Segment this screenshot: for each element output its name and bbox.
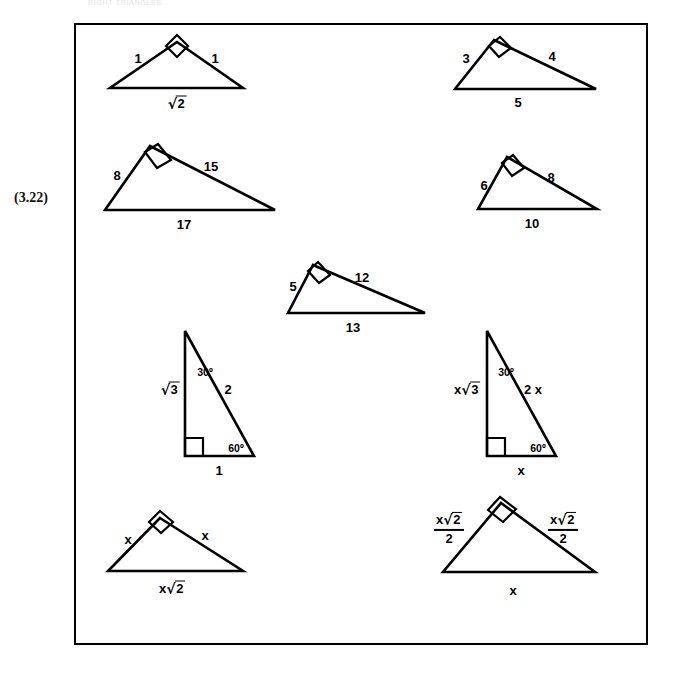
radical-sqrt2: √2 bbox=[166, 581, 185, 596]
label-tri7-angle-top: 30º bbox=[498, 367, 514, 378]
label-tri3-base: 17 bbox=[177, 218, 191, 231]
label-tri8-left-leg: x bbox=[124, 533, 131, 546]
label-tri8-base-prefix: x bbox=[159, 581, 166, 596]
radical-sqrt2: √2 bbox=[168, 96, 187, 111]
triangle-labels-layer: 1 1 √2 3 4 5 8 15 17 6 8 10 5 12 13 √3 2… bbox=[0, 0, 676, 679]
label-tri2-right-leg: 4 bbox=[548, 50, 555, 63]
label-tri5-base: 13 bbox=[346, 321, 360, 334]
fraction-numerator: x√2 bbox=[548, 512, 578, 529]
numerator-prefix: x bbox=[550, 512, 557, 527]
radical-sqrt3: √3 bbox=[161, 382, 180, 397]
label-tri5-left-leg: 5 bbox=[289, 280, 296, 293]
label-tri6-angle-top: 30º bbox=[197, 367, 213, 378]
label-tri3-left-leg: 8 bbox=[113, 169, 120, 182]
radical-sqrt2: √2 bbox=[557, 512, 576, 528]
fraction-denominator: 2 bbox=[548, 531, 578, 546]
label-tri6-angle-bottom-right: 60º bbox=[228, 443, 244, 454]
label-tri2-left-leg: 3 bbox=[462, 52, 469, 65]
label-tri7-angle-bottom-right: 60º bbox=[530, 443, 546, 454]
label-tri9-base: x bbox=[509, 584, 516, 597]
label-tri8-base: x√2 bbox=[159, 581, 185, 596]
label-tri7-vertical-leg: x√3 bbox=[454, 382, 480, 397]
label-tri9-right-leg-fraction: x√2 2 bbox=[548, 512, 578, 546]
label-tri6-base: 1 bbox=[215, 464, 222, 477]
label-tri4-left-leg: 6 bbox=[480, 179, 487, 192]
label-tri1-left-leg: 1 bbox=[134, 52, 141, 65]
label-tri5-right-leg: 12 bbox=[355, 271, 369, 284]
numerator-prefix: x bbox=[436, 512, 443, 527]
label-tri7-base: x bbox=[517, 464, 524, 477]
radicand-value: 3 bbox=[470, 382, 480, 396]
radicand-value: 2 bbox=[566, 512, 576, 527]
label-tri3-right-leg: 15 bbox=[204, 160, 218, 173]
fraction-numerator: x√2 bbox=[434, 512, 464, 529]
label-tri1-base: √2 bbox=[168, 96, 187, 111]
radical-sqrt3: √3 bbox=[461, 382, 480, 397]
label-tri4-base: 10 bbox=[525, 217, 539, 230]
label-tri9-left-leg-fraction: x√2 2 bbox=[434, 512, 464, 546]
radicand-value: 3 bbox=[169, 382, 179, 396]
label-tri8-right-leg: x bbox=[201, 529, 208, 542]
label-tri6-vertical-leg: √3 bbox=[161, 382, 180, 397]
label-tri2-base: 5 bbox=[514, 96, 521, 109]
label-tri1-right-leg: 1 bbox=[211, 52, 218, 65]
label-tri6-hypotenuse: 2 bbox=[224, 383, 231, 396]
label-tri4-right-leg: 8 bbox=[547, 171, 554, 184]
radicand-value: 2 bbox=[452, 512, 462, 527]
radicand-value: 2 bbox=[175, 581, 185, 595]
label-tri7-vertical-prefix: x bbox=[454, 382, 461, 397]
page-root: RIGHT TRIANGLES (3.22) bbox=[0, 0, 676, 679]
fraction-denominator: 2 bbox=[434, 531, 464, 546]
radicand-value: 2 bbox=[176, 96, 186, 110]
label-tri7-hypotenuse: 2 x bbox=[524, 383, 542, 396]
radical-sqrt2: √2 bbox=[443, 512, 462, 528]
